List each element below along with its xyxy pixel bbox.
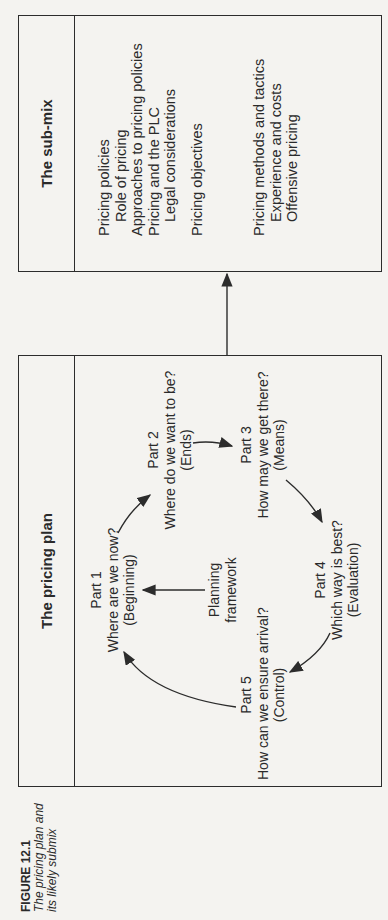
diagram-arrows <box>0 0 388 920</box>
part1-to-part2-arrow <box>118 495 150 533</box>
part4-to-part5-arrow <box>290 633 330 672</box>
part2-to-part3-arrow <box>193 442 232 446</box>
part3-to-part4-arrow <box>286 480 322 522</box>
part5-to-part1-arrow <box>124 652 236 707</box>
figure-stage: FIGURE 12.1 The pricing plan and its lik… <box>0 0 388 920</box>
